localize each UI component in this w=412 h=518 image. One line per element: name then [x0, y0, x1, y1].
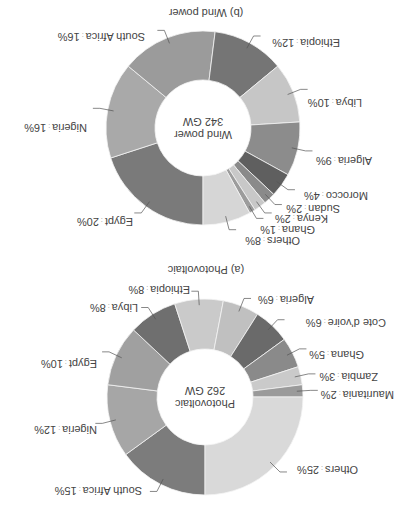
pv-label-cote-d-voire: Cote d'voire:6%	[306, 315, 386, 329]
label-country: South Africa	[83, 485, 142, 497]
wind-label-morocco: Morocco:4%	[304, 188, 368, 202]
wind-center-total: 342 GW	[153, 115, 253, 128]
pv-label-ghana: Ghana:5%	[309, 347, 364, 361]
wind-slice-egypt	[111, 143, 203, 225]
label-country: Others	[267, 235, 300, 247]
label-separator: :	[278, 225, 280, 232]
wind-label-south-africa: South Africa:16%	[58, 29, 145, 43]
pv-center-title: Photovoltaic	[155, 397, 255, 410]
label-percent: 25%	[297, 464, 319, 476]
label-separator: :	[324, 318, 326, 325]
label-separator: :	[263, 236, 265, 243]
label-separator: :	[296, 38, 298, 45]
label-separator: :	[79, 486, 81, 493]
label-separator: :	[339, 390, 341, 397]
label-percent: 12%	[272, 37, 294, 49]
label-country: Zambia	[341, 371, 378, 383]
label-country: South Africa	[86, 31, 145, 43]
label-separator: :	[337, 372, 339, 379]
label-separator: :	[82, 32, 84, 39]
label-percent: 5%	[309, 349, 325, 361]
pv-chart-title: (a) Photovoltaic	[0, 264, 412, 276]
label-country: Egypt	[105, 216, 133, 228]
label-country: Mauritania	[343, 389, 394, 401]
label-separator: :	[101, 217, 103, 224]
pv-slice-others	[205, 397, 303, 495]
label-percent: 2%	[321, 389, 337, 401]
label-country: Nigeria	[52, 122, 87, 134]
pv-label-zambia: Zambia:3%	[319, 369, 378, 383]
label-separator: :	[327, 350, 329, 357]
label-percent: 3%	[319, 371, 335, 383]
pv-label-ethiopia: Ethiopia:8%	[128, 282, 190, 296]
label-country: Ghana	[331, 349, 364, 361]
label-country: Egypt	[69, 358, 97, 370]
wind-label-ethiopia: Ethiopia:12%	[272, 35, 340, 49]
label-percent: 10%	[308, 97, 330, 109]
label-country: Libya	[112, 302, 138, 314]
label-percent: 20%	[77, 216, 99, 228]
label-separator: :	[334, 156, 336, 163]
pv-label-mauritania: Mauritania:2%	[321, 387, 394, 401]
label-separator: :	[146, 285, 148, 292]
label-country: Ethiopia	[300, 37, 340, 49]
wind-label-egypt: Egypt:20%	[77, 214, 133, 228]
pv-center-label: Photovoltaic 262 GW	[155, 384, 255, 410]
pv-label-south-africa: South Africa:15%	[55, 483, 142, 497]
wind-label-libya: Libya:10%	[308, 95, 362, 109]
label-percent: 8%	[128, 284, 144, 296]
pv-label-libya: Libya:8%	[90, 300, 138, 314]
label-separator: :	[322, 191, 324, 198]
label-percent: 12%	[34, 424, 56, 436]
pv-label-others: Others:25%	[297, 462, 358, 476]
label-percent: 6%	[306, 317, 322, 329]
label-separator: :	[108, 303, 110, 310]
label-percent: 15%	[55, 485, 77, 497]
label-separator: :	[321, 465, 323, 472]
pv-label-egypt: Egypt:10%	[41, 356, 97, 370]
label-separator: :	[304, 204, 306, 211]
wind-label-algeria: Algeria:9%	[316, 153, 372, 167]
pv-center-total: 262 GW	[155, 384, 255, 397]
label-separator: :	[58, 425, 60, 432]
label-country: Cote d'voire	[328, 317, 386, 329]
wind-center-title: Wind power	[153, 128, 253, 141]
label-separator: :	[276, 295, 278, 302]
wind-label-others: Others:8%	[245, 233, 300, 247]
label-country: Others	[325, 464, 358, 476]
pv-label-nigeria: Nigeria:12%	[34, 422, 97, 436]
wind-chart-title: (b) Wind power	[0, 7, 412, 19]
wind-label-nigeria: Nigeria:16%	[24, 120, 87, 134]
label-percent: 16%	[58, 31, 80, 43]
donut-charts-canvas	[0, 0, 412, 518]
label-separator: :	[65, 359, 67, 366]
label-percent: 8%	[245, 235, 261, 247]
label-country: Libya	[336, 97, 362, 109]
label-country: Algeria	[338, 155, 372, 167]
label-percent: 16%	[24, 122, 46, 134]
label-separator: :	[293, 214, 295, 221]
pv-label-algeria: Algeria:6%	[258, 292, 314, 306]
label-percent: 6%	[258, 294, 274, 306]
wind-center-label: Wind power 342 GW	[153, 115, 253, 141]
label-percent: 9%	[316, 155, 332, 167]
label-separator: :	[48, 123, 50, 130]
label-country: Nigeria	[62, 424, 97, 436]
label-country: Ethiopia	[150, 284, 190, 296]
label-percent: 10%	[41, 358, 63, 370]
label-country: Algeria	[280, 294, 314, 306]
label-percent: 8%	[90, 302, 106, 314]
figure: Photovoltaic 262 GW (a) Photovoltaic Win…	[0, 0, 412, 518]
label-separator: :	[332, 98, 334, 105]
